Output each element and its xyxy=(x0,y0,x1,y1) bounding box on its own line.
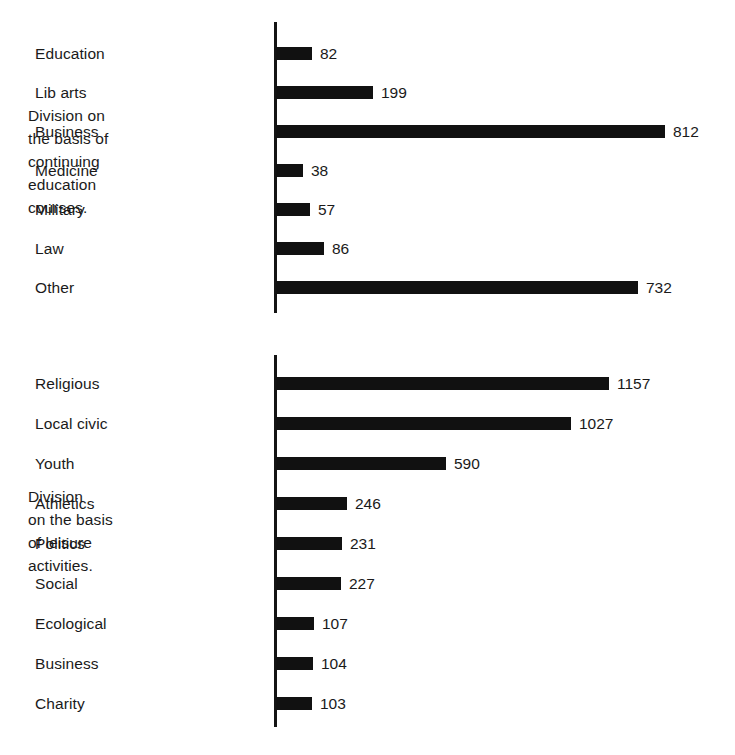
bar-value-label: 1157 xyxy=(617,373,650,395)
bar-category-label: Politics xyxy=(35,533,265,555)
bar-category-label: Business xyxy=(35,121,265,143)
table-row: Military 57 xyxy=(0,199,735,221)
table-row: Medicine 38 xyxy=(0,160,735,182)
bar-business xyxy=(276,657,313,670)
bar-social xyxy=(276,577,341,590)
bar-category-label: Other xyxy=(35,277,265,299)
bar-value-label: 107 xyxy=(322,613,348,635)
table-row: Lib arts 199 xyxy=(0,82,735,104)
bar-military xyxy=(276,203,310,216)
bar-category-label: Local civic xyxy=(35,413,265,435)
bar-value-label: 199 xyxy=(381,82,407,104)
bar-value-label: 1027 xyxy=(579,413,613,435)
bar-category-label: Law xyxy=(35,238,265,260)
table-row: Business 812 xyxy=(0,121,735,143)
bar-value-label: 812 xyxy=(673,121,699,143)
bar-value-label: 86 xyxy=(332,238,349,260)
bar-business xyxy=(276,125,665,138)
bar-religious xyxy=(276,377,609,390)
bar-athletics xyxy=(276,497,347,510)
bar-youth xyxy=(276,457,446,470)
table-row: Ecological 107 xyxy=(0,613,735,635)
table-row: Religious 1157 xyxy=(0,373,735,395)
bar-category-label: Religious xyxy=(35,373,265,395)
table-row: Athletics 246 xyxy=(0,493,735,515)
table-row: Local civic 1027 xyxy=(0,413,735,435)
table-row: Education 82 xyxy=(0,43,735,65)
bar-value-label: 38 xyxy=(311,160,328,182)
bar-value-label: 57 xyxy=(318,199,335,221)
bar-value-label: 104 xyxy=(321,653,347,675)
bar-category-label: Social xyxy=(35,573,265,595)
figure-1-plot: Education 82 Lib arts 199 Business 812 M… xyxy=(0,0,735,340)
table-row: Law 86 xyxy=(0,238,735,260)
bar-category-label: Athletics xyxy=(35,493,265,515)
bar-value-label: 590 xyxy=(454,453,480,475)
bar-category-label: Ecological xyxy=(35,613,265,635)
bar-local-civic xyxy=(276,417,571,430)
table-row: Youth 590 xyxy=(0,453,735,475)
bar-other xyxy=(276,281,638,294)
bar-value-label: 227 xyxy=(349,573,375,595)
bar-education xyxy=(276,47,312,60)
bar-category-label: Education xyxy=(35,43,265,65)
bar-lib-arts xyxy=(276,86,373,99)
bar-value-label: 82 xyxy=(320,43,337,65)
bar-charity xyxy=(276,697,312,710)
figure-leisure-activities: Division on the basis of leisure activit… xyxy=(0,340,735,755)
bar-category-label: Military xyxy=(35,199,265,221)
bar-medicine xyxy=(276,164,303,177)
bar-value-label: 103 xyxy=(320,693,346,715)
table-row: Business 104 xyxy=(0,653,735,675)
table-row: Politics 231 xyxy=(0,533,735,555)
figure-continuing-education: Division on the basis of continuing educ… xyxy=(0,0,735,340)
table-row: Other 732 xyxy=(0,277,735,299)
bar-category-label: Youth xyxy=(35,453,265,475)
table-row: Social 227 xyxy=(0,573,735,595)
bar-category-label: Business xyxy=(35,653,265,675)
bar-ecological xyxy=(276,617,314,630)
bar-category-label: Lib arts xyxy=(35,82,265,104)
bar-category-label: Medicine xyxy=(35,160,265,182)
bar-value-label: 231 xyxy=(350,533,376,555)
bar-category-label: Charity xyxy=(35,693,265,715)
figure-2-plot: Religious 1157 Local civic 1027 Youth 59… xyxy=(0,340,735,755)
bar-law xyxy=(276,242,324,255)
bar-politics xyxy=(276,537,342,550)
bar-value-label: 732 xyxy=(646,277,672,299)
table-row: Charity 103 xyxy=(0,693,735,715)
bar-value-label: 246 xyxy=(355,493,381,515)
